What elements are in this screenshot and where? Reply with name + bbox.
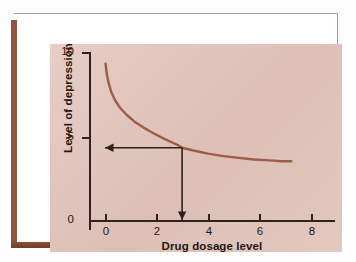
- figure-page: 10 5 0 0 2 4 6 8 Drug dosage level Level…: [0, 0, 356, 262]
- plot-panel: 10 5 0 0 2 4 6 8 Drug dosage level Level…: [50, 44, 342, 252]
- dose-dropline-arrowhead: [178, 212, 186, 221]
- level-readoff-arrowhead: [105, 144, 114, 152]
- figure-card: 10 5 0 0 2 4 6 8 Drug dosage level Level…: [17, 16, 335, 242]
- outer-frame-top-rule: [14, 13, 338, 14]
- annotation-layer: [50, 44, 342, 252]
